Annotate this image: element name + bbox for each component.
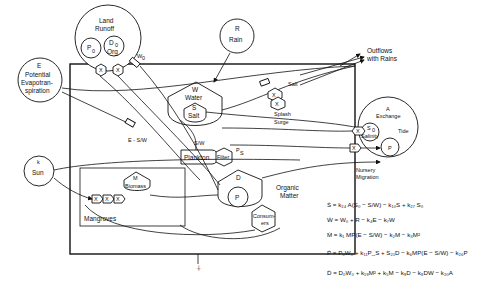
svg-text:R: R [235, 25, 240, 32]
mangrove-ecosystem-diagram: Land Runoff P 0 D 0 Org X X W 0 R Rain E… [0, 0, 479, 291]
runoff-label: Runoff [95, 25, 114, 32]
equation-detritus: Ḋ = D₀W₀ + k₁₉M² + k₅M − k₉D − k₈DW − k₂… [327, 269, 454, 276]
svg-text:M: M [133, 175, 138, 181]
nursery-label: Nursery [356, 167, 376, 173]
svg-text:Exchange: Exchange [376, 113, 400, 119]
svg-text:X: X [105, 196, 109, 202]
svg-text:X: X [352, 145, 356, 151]
svg-text:X: X [116, 196, 120, 202]
svg-text:spiration: spiration [25, 87, 50, 95]
svg-text:Sun: Sun [32, 169, 44, 176]
svg-text:Salinity: Salinity [361, 133, 379, 139]
svg-text:ers: ers [261, 220, 269, 226]
svg-text:Org: Org [107, 48, 118, 56]
svg-text:A: A [386, 106, 390, 112]
svg-text:S: S [367, 125, 371, 131]
svg-text:E: E [37, 62, 42, 69]
svg-text:P: P [235, 194, 239, 201]
with-rains-label: with Rains [366, 55, 398, 62]
svg-text:Water: Water [185, 94, 203, 101]
equations: Ṡ = k₂₄ A(S₀ − S/W) − k₁₀S + k₂₇ S₀ Ẇ = … [327, 201, 468, 276]
d0-label: D [109, 39, 114, 46]
runoff-multiplier-2: X [113, 64, 123, 76]
svg-text:S: S [240, 150, 244, 156]
svg-text:X: X [116, 67, 120, 73]
svg-text:D: D [236, 174, 241, 181]
svg-text:Organic: Organic [276, 184, 300, 192]
rain-source: R Rain [220, 19, 254, 53]
svg-text:Mangroves: Mangroves [84, 215, 117, 223]
svg-text:Potential: Potential [25, 71, 51, 78]
svg-text:Plankton: Plankton [184, 154, 210, 161]
svg-text:X: X [94, 196, 98, 202]
outflows-label: Outflows [367, 47, 393, 54]
mangrove-biomass: M Biomass Mangroves X X X [84, 172, 150, 223]
runoff-multiplier-1: X [96, 64, 106, 76]
svg-text:X: X [275, 101, 279, 107]
migration-label: Migration [356, 174, 379, 180]
salt-flow-label: Salt [288, 81, 298, 87]
svg-text:Consum-: Consum- [253, 213, 275, 219]
equation-plankton: Ṗ = P₀W₀ + k₁₁P_S + S₂₁D − k₆MP(E − S/W)… [327, 249, 468, 256]
heat-sink-icon: ⏚ [196, 265, 202, 271]
equation-salt: Ṡ = k₂₄ A(S₀ − S/W) − k₁₀S + k₂₇ S₀ [327, 201, 424, 208]
svg-text:Rain: Rain [229, 36, 243, 43]
evapotranspiration-source: E Potential Evapotran- spiration [18, 58, 62, 102]
consumers: Consum- ers [252, 205, 275, 232]
svg-text:Splash: Splash [274, 111, 291, 117]
water-storage: W Water S Salt [168, 82, 222, 126]
svg-text:Tide: Tide [398, 128, 409, 134]
svg-text:X: X [99, 67, 103, 73]
svg-text:0: 0 [142, 55, 145, 61]
svg-text:Evapotran-: Evapotran- [21, 79, 53, 87]
land-label: Land [99, 17, 114, 24]
svg-text:S: S [192, 104, 197, 111]
organic-matter-storage: D P Organic Matter [218, 170, 300, 207]
equation-mangrove: Ṁ = k₁ MP(E − S/W) − k₂M − k₃M² [327, 231, 420, 238]
svg-text:Salt: Salt [188, 112, 199, 119]
svg-text:X: X [272, 92, 276, 98]
svg-text:X: X [356, 128, 360, 134]
svg-text:Surge: Surge [274, 119, 289, 125]
svg-text:Matter: Matter [280, 192, 299, 199]
svg-text:k: k [37, 159, 40, 165]
svg-text:Biomass: Biomass [125, 183, 146, 189]
equation-water: Ẇ = W₀ + R − k₄E − k₇W [327, 216, 395, 223]
svg-text:0: 0 [92, 48, 95, 54]
svg-text:P: P [388, 145, 392, 151]
evap-term-label: E - S/W [128, 137, 148, 143]
p0-label: P [87, 44, 91, 51]
svg-text:W: W [192, 86, 199, 93]
plankton-producer: Plankton Filter [181, 148, 232, 166]
sun-source: k Sun [24, 156, 54, 186]
